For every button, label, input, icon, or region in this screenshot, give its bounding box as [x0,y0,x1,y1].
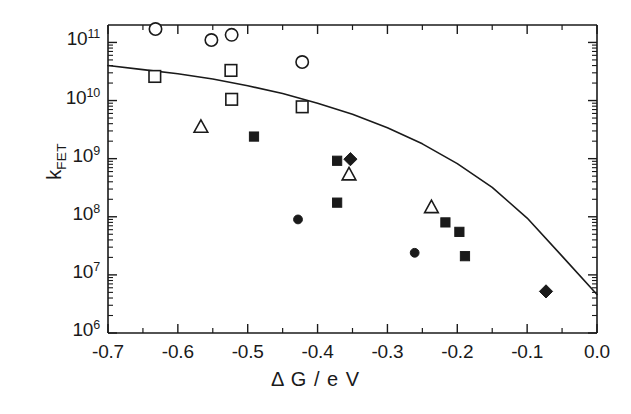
y-axis-label-subscript: FET [54,143,69,169]
marker-open-circle [205,34,217,46]
marker-open-square [226,94,238,106]
marker-filled-square [441,218,450,227]
y-axis-label-main: k [43,170,65,180]
x-tick-label: -0.4 [302,341,334,363]
x-tick-label: -0.5 [232,341,264,363]
marker-filled-square [333,156,342,165]
marker-filled-square [455,227,464,236]
y-tick-label: 107 [34,261,100,283]
marker-filled-circle [410,248,419,257]
marker-open-circle [296,56,308,68]
marker-open-triangle [342,167,356,179]
x-tick-label: -0.1 [511,341,543,363]
x-axis-label-text: Δ G / e V [271,368,360,390]
y-tick-mantissa: 10 [66,87,87,108]
y-tick-mantissa: 10 [73,319,94,340]
y-tick-mantissa: 10 [73,203,94,224]
marker-open-square [296,101,308,113]
y-tick-mantissa: 10 [67,28,88,49]
y-tick-exponent: 6 [93,318,100,332]
x-tick-label: -0.6 [162,341,194,363]
y-tick-exponent: 11 [87,27,100,41]
marker-open-square [225,65,237,77]
y-tick-mantissa: 10 [73,261,94,282]
marker-open-circle [149,23,161,35]
y-tick-exponent: 8 [93,201,100,215]
y-axis-label: kFET [43,102,66,222]
y-tick-exponent: 10 [86,85,100,99]
y-tick-exponent: 7 [93,260,100,274]
x-tick-label: -0.3 [371,341,403,363]
marker-filled-square [249,132,258,141]
marker-filled-diamond [344,153,357,166]
marker-open-square [149,71,161,83]
marker-filled-square [333,198,342,207]
marker-filled-diamond [539,285,552,298]
marker-filled-circle [294,215,303,224]
x-tick-label: -0.7 [92,341,124,363]
y-tick-mantissa: 10 [73,145,94,166]
marker-open-triangle [425,200,439,212]
marker-filled-square [460,252,469,261]
x-tick-label: 0.0 [584,341,610,363]
figure-container: 10610710810910101011 -0.7-0.6-0.5-0.4-0.… [0,0,631,414]
y-tick-label: 106 [34,319,100,341]
data-markers [149,23,553,298]
y-tick-exponent: 9 [93,143,100,157]
x-tick-label: -0.2 [441,341,473,363]
y-tick-label: 1011 [34,28,100,50]
x-axis-label: Δ G / e V [0,368,631,391]
marker-open-triangle [194,120,208,132]
marker-open-circle [225,29,237,41]
